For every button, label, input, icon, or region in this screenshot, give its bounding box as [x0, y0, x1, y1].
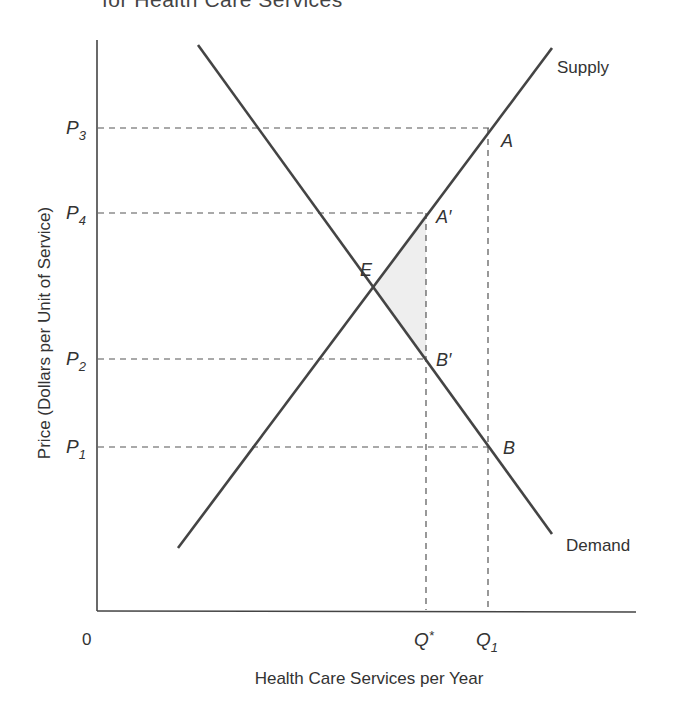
demand-label: Demand [566, 536, 630, 555]
point-b-prime-label: B′ [436, 350, 452, 370]
y-axis-label: Price (Dollars per Unit of Service) [35, 207, 54, 459]
point-b-label: B [503, 438, 515, 458]
supply-demand-chart: Supply Demand A A′ E B′ B P3 P4 P2 P1 Q*… [0, 0, 678, 721]
x-axis [97, 611, 636, 612]
deadweight-loss-area [372, 213, 426, 359]
axes [97, 40, 636, 612]
point-e-label: E [360, 260, 373, 280]
y-tick-p4: P4 [66, 202, 86, 228]
x-axis-label: Health Care Services per Year [255, 669, 484, 688]
x-tick-q1: Q1 [476, 629, 498, 655]
point-a-label: A [500, 131, 513, 151]
point-a-prime-label: A′ [435, 207, 452, 227]
guide-lines [98, 128, 489, 610]
y-tick-p1: P1 [66, 436, 86, 462]
origin-label: 0 [82, 630, 91, 649]
supply-label: Supply [557, 58, 609, 77]
y-tick-p2: P2 [66, 348, 87, 374]
x-tick-qstar: Q* [414, 628, 435, 650]
y-tick-p3: P3 [66, 117, 87, 143]
supply-curve [178, 48, 552, 548]
